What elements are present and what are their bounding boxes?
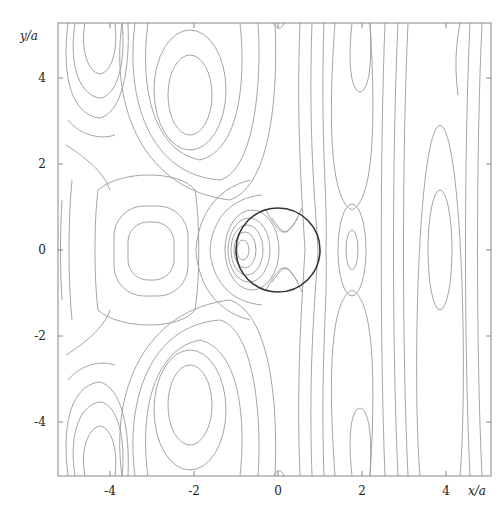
- x-tick-label: 2: [358, 484, 366, 498]
- right-contours: [299, 23, 482, 476]
- x-tick-label: 0: [274, 484, 282, 498]
- upper-oval-contours: [120, 23, 276, 200]
- y-tick-label: -4: [34, 415, 46, 429]
- y-tick-label: 2: [38, 157, 46, 171]
- contour-lines: [61, 23, 483, 476]
- x-tick-label: -2: [188, 484, 200, 498]
- contour-plot: -4 -2 0 2 4 -4 -2 0 2 4 y/a x/a: [0, 0, 498, 516]
- y-axis-label: y/a: [19, 29, 38, 43]
- x-axis-label: x/a: [468, 484, 486, 498]
- y-tick-label: -2: [34, 329, 46, 343]
- lower-oval-contours: [120, 300, 276, 476]
- inner-closed-contours: [196, 180, 279, 320]
- y-tick-labels: -4 -2 0 2 4: [34, 71, 46, 429]
- top-left-contours: [66, 23, 128, 190]
- x-tick-labels: -4 -2 0 2 4: [104, 484, 450, 498]
- x-tick-label: 4: [442, 484, 450, 498]
- y-tick-label: 4: [38, 71, 46, 85]
- bottom-left-contours: [66, 310, 128, 476]
- x-tick-label: -4: [104, 484, 116, 498]
- y-tick-label: 0: [38, 243, 46, 257]
- left-closed-contours: [61, 175, 199, 325]
